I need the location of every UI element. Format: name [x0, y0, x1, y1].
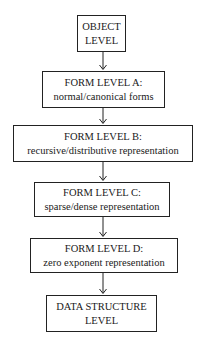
- node-subtitle: normal/canonical forms: [53, 90, 153, 104]
- down-arrow-icon: [98, 217, 108, 238]
- node-subtitle: LEVEL: [85, 34, 118, 48]
- node-title: FORM LEVEL A:: [65, 76, 143, 90]
- form-level-a-box: FORM LEVEL A: normal/canonical forms: [42, 71, 165, 108]
- node-title: OBJECT: [82, 20, 121, 34]
- node-subtitle: LEVEL: [85, 314, 118, 328]
- form-level-c-box: FORM LEVEL C: sparse/dense representatio…: [34, 182, 170, 217]
- data-structure-level-box: DATA STRUCTURE LEVEL: [46, 295, 157, 332]
- node-title: FORM LEVEL D:: [65, 242, 143, 256]
- down-arrow-icon: [98, 273, 108, 295]
- node-subtitle: zero exponent representation: [43, 256, 164, 270]
- node-title: FORM LEVEL C:: [63, 186, 141, 200]
- down-arrow-icon: [98, 52, 108, 71]
- node-subtitle: recursive/distributive representation: [27, 144, 178, 158]
- node-subtitle: sparse/dense representation: [44, 200, 159, 214]
- form-level-b-box: FORM LEVEL B: recursive/distributive rep…: [13, 125, 193, 162]
- node-title: FORM LEVEL B:: [64, 130, 142, 144]
- down-arrow-icon: [98, 162, 108, 182]
- node-title: DATA STRUCTURE: [56, 300, 146, 314]
- object-level-box: OBJECT LEVEL: [77, 15, 126, 52]
- down-arrow-icon: [98, 108, 108, 125]
- form-level-d-box: FORM LEVEL D: zero exponent representati…: [30, 238, 178, 273]
